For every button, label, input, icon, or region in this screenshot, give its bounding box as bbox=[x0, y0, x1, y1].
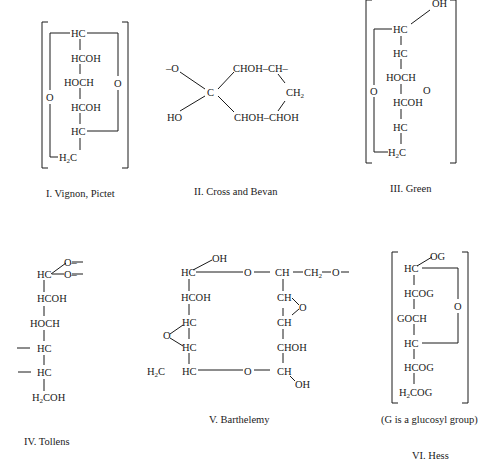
group-label: C bbox=[207, 87, 214, 98]
group-label: CHOH–CH– bbox=[233, 63, 288, 74]
group-label: HC bbox=[37, 269, 52, 280]
ring-oxygen: O bbox=[423, 85, 431, 96]
caption: IV. Tollens bbox=[24, 436, 70, 447]
group-label: HC bbox=[404, 263, 419, 274]
group-label: GOCH bbox=[397, 313, 427, 324]
group-label: HC bbox=[37, 343, 52, 354]
ring-oxygen: O bbox=[114, 78, 122, 89]
group-label: HC bbox=[182, 342, 197, 353]
group-label: H2C bbox=[59, 152, 77, 163]
group-label: CH bbox=[277, 292, 292, 303]
group-label: HC bbox=[181, 267, 196, 278]
group-label: O bbox=[163, 330, 171, 341]
caption: II. Cross and Bevan bbox=[194, 186, 277, 197]
group-label: OH bbox=[212, 253, 227, 264]
group-label: HCOH bbox=[71, 53, 101, 64]
group-label: OH bbox=[432, 0, 447, 9]
group-label: CH bbox=[277, 366, 292, 377]
group-label: –O bbox=[166, 63, 179, 74]
group-label: HOCH bbox=[386, 72, 416, 83]
group-label: CHOH bbox=[277, 342, 307, 353]
group-label: HCOG bbox=[404, 362, 434, 373]
group-label: H2COG bbox=[399, 387, 432, 398]
group-label: HCOG bbox=[404, 288, 434, 299]
ring-oxygen: O bbox=[46, 92, 54, 103]
group-label: HC bbox=[404, 338, 419, 349]
group-label: HCOH bbox=[71, 102, 101, 113]
group-label: CH bbox=[277, 317, 292, 328]
group-label: HC bbox=[393, 24, 408, 35]
group-label: O bbox=[244, 267, 252, 278]
group-label: HC bbox=[393, 48, 408, 59]
group-label: HCOH bbox=[37, 293, 67, 304]
group-label: HC bbox=[71, 126, 86, 137]
group-label: HOCH bbox=[64, 77, 94, 88]
group-label: OH bbox=[295, 379, 310, 390]
group-label: HCOH bbox=[181, 292, 211, 303]
group-label: CH bbox=[275, 267, 290, 278]
group-label: HO bbox=[167, 112, 182, 123]
caption: I. Vignon, Pictet bbox=[46, 188, 115, 199]
group-label: HC bbox=[182, 317, 197, 328]
glucosyl-note: (G is a glucosyl group) bbox=[381, 414, 478, 425]
group-label: HOCH bbox=[30, 318, 60, 329]
group-label: HC bbox=[37, 367, 52, 378]
group-label: HC bbox=[393, 122, 408, 133]
caption: VI. Hess bbox=[412, 450, 449, 461]
group-label: CHOH–CHOH bbox=[234, 112, 299, 123]
caption: V. Barthelemy bbox=[209, 414, 269, 425]
group-label: CH2 bbox=[304, 267, 322, 278]
group-label: HC bbox=[182, 366, 197, 377]
group-label: HCOH bbox=[393, 97, 423, 108]
caption: III. Green bbox=[390, 183, 431, 194]
group-label: O– bbox=[64, 269, 77, 280]
group-label: H2C bbox=[388, 147, 406, 158]
group-label: O– bbox=[64, 257, 77, 268]
group-label: O bbox=[244, 366, 252, 377]
group-label: O bbox=[299, 302, 307, 313]
ring-oxygen: O bbox=[454, 301, 462, 312]
ring-oxygen: O bbox=[370, 86, 378, 97]
group-label: OG bbox=[430, 251, 445, 262]
bracket-right bbox=[122, 22, 128, 168]
group-label: CH2 bbox=[286, 87, 304, 98]
group-label: HC bbox=[71, 28, 86, 39]
group-label: H2C bbox=[147, 366, 165, 377]
group-label: H2COH bbox=[32, 392, 65, 403]
group-label: O bbox=[332, 267, 340, 278]
